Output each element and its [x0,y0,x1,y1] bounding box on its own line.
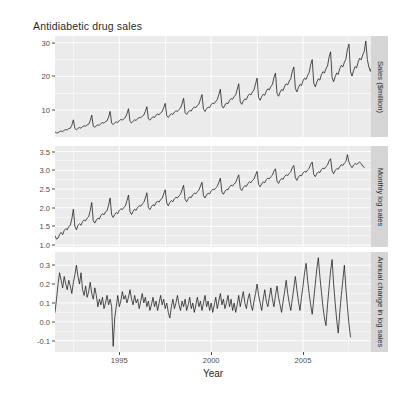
y-axis-panel-1: 102030 [0,36,55,137]
log-sales-line-chart [55,146,371,247]
strip-sales: Sales ($million) [371,36,388,137]
y-tick-label: 30 [3,38,55,47]
y-axis-panel-2: 1.01.52.02.53.03.5 [0,146,55,247]
y-tick-label: 2.0 [3,203,55,212]
strip-annual-change: Annual change in log sales [371,252,388,352]
y-tick-label: -0.1 [3,336,55,345]
plot-area-sales [55,36,371,137]
x-tick-label: 2005 [295,356,312,365]
plot-area-annual-change [55,252,371,352]
facet-panel-log-sales [55,146,371,247]
x-axis: 199520002005 [55,352,371,368]
strip-label-annual-change: Annual change in log sales [375,257,384,348]
x-tick-label: 2000 [203,356,220,365]
y-tick-label: 3.0 [3,166,55,175]
x-tick-label: 1995 [111,356,128,365]
strip-log-sales: Monthly log sales [371,146,388,247]
strip-label-log-sales: Monthly log sales [375,167,384,226]
facet-panel-annual-change [55,252,371,352]
y-tick-label: 2.5 [3,185,55,194]
page-title: Antidiabetic drug sales [33,20,142,32]
x-tick-mark [119,352,120,355]
y-tick-label: 10 [3,106,55,115]
y-tick-label: 20 [3,72,55,81]
x-tick-mark [211,352,212,355]
chart-root: Antidiabetic drug sales 102030 Sales ($m… [0,0,417,397]
y-tick-label: 1.5 [3,222,55,231]
y-axis-panel-3: -0.10.00.10.20.3 [0,252,55,352]
y-tick-label: 3.5 [3,147,55,156]
strip-label-sales: Sales ($million) [375,61,384,113]
y-tick-label: 0.2 [3,280,55,289]
annual-change-line-chart [55,252,371,352]
x-tick-mark [303,352,304,355]
plot-area-log-sales [55,146,371,247]
y-tick-label: 0.3 [3,261,55,270]
facet-panel-sales [55,36,371,137]
sales-line-chart [55,36,371,137]
y-tick-label: 1.0 [3,241,55,250]
y-tick-label: 0.1 [3,298,55,307]
x-axis-title: Year [55,368,371,379]
y-tick-label: 0.0 [3,317,55,326]
